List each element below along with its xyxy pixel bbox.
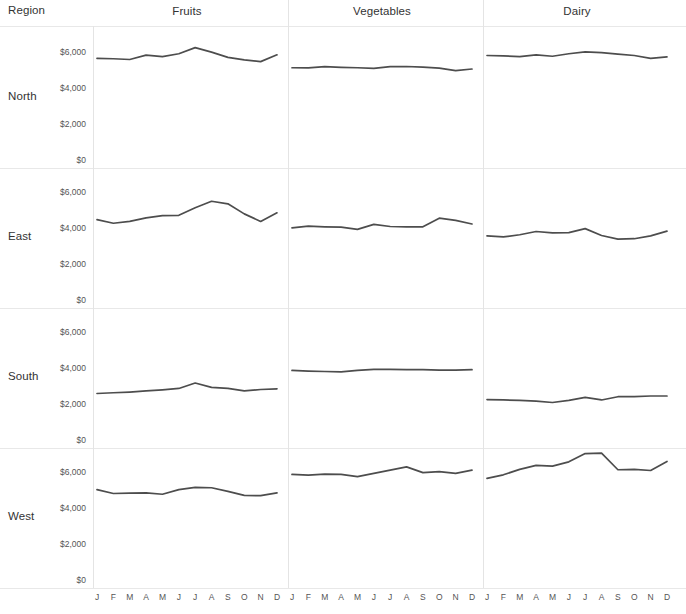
series-line-south-fruits (97, 383, 277, 393)
series-line-east-fruits (97, 201, 277, 223)
series-line-east-dairy (487, 229, 667, 239)
series-line-north-dairy (487, 52, 667, 58)
series-line-south-dairy (487, 396, 667, 402)
series-layer (0, 0, 686, 614)
series-line-west-dairy (487, 453, 667, 478)
series-line-north-vegetables (292, 67, 472, 71)
series-line-south-vegetables (292, 369, 472, 372)
small-multiples-chart: Region Fruits Vegetables Dairy North Eas… (0, 0, 686, 614)
series-line-east-vegetables (292, 218, 472, 229)
series-line-west-fruits (97, 487, 277, 495)
series-line-north-fruits (97, 48, 277, 62)
series-line-west-vegetables (292, 467, 472, 477)
